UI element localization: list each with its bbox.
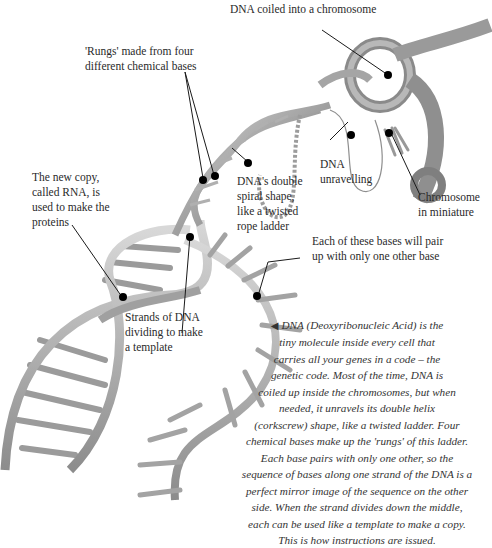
label-unravelling: DNA unravelling [320, 157, 372, 187]
label-base-pairs: Each of these bases will pair up with on… [312, 234, 443, 264]
label-strands-dividing: Strands of DNA dividing to make a templa… [125, 310, 203, 355]
pointer-arrow-icon: ◀ [271, 320, 279, 331]
caption-text: DNA (Deoxyribonucleic Acid) is the tiny … [242, 319, 472, 547]
label-chromosome-miniature: Chromosome in miniature [418, 190, 480, 220]
caption: ◀DNA (Deoxyribonucleic Acid) is the tiny… [222, 300, 492, 548]
label-double-spiral: DNA's double spiral shape, like a twiste… [237, 174, 303, 234]
label-rungs: 'Rungs' made from four different chemica… [85, 44, 197, 74]
label-rna-copy: The new copy, called RNA, is used to mak… [32, 170, 110, 230]
label-chromosome-coil: DNA coiled into a chromosome [230, 2, 376, 17]
